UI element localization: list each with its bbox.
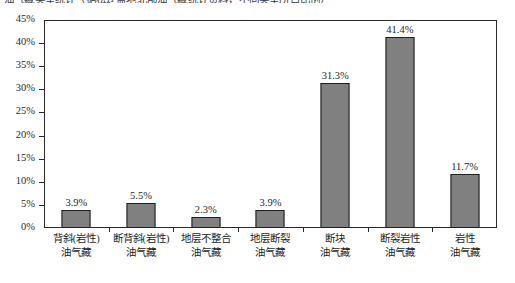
bar-value-label: 11.7% xyxy=(451,161,478,172)
bar-chart: 油气藏类型统计（据松辽盆地北部油气藏统计资料，不同类型所占比例） 45%40%3… xyxy=(0,0,515,283)
y-axis-tick-label: 10% xyxy=(16,175,35,186)
y-axis-tick-label: 25% xyxy=(16,105,35,116)
bar[interactable] xyxy=(256,210,285,228)
bar-slot: 31.3% xyxy=(303,20,368,228)
x-axis-category-label: 地层不整合油气藏 xyxy=(173,232,238,260)
bar[interactable] xyxy=(450,174,479,228)
bar-slot: 41.4% xyxy=(368,20,433,228)
category-label-line2: 油气藏 xyxy=(238,246,303,260)
category-label-line1: 地层断裂 xyxy=(250,233,290,244)
x-axis-category-label: 断块油气藏 xyxy=(303,232,368,260)
bar[interactable] xyxy=(385,37,414,228)
y-axis-tick-label: 35% xyxy=(16,59,35,70)
x-axis-category-label: 断背斜(岩性)油气藏 xyxy=(109,232,174,260)
bar-slot: 2.3% xyxy=(173,20,238,228)
bar-value-label: 2.3% xyxy=(195,204,217,215)
category-label-line1: 背斜(岩性) xyxy=(53,233,100,244)
category-label-line1: 地层不整合 xyxy=(181,233,231,244)
category-label-line2: 油气藏 xyxy=(109,246,174,260)
bars-layer: 3.9%5.5%2.3%3.9%31.3%41.4%11.7% xyxy=(44,20,497,228)
x-axis-category-label: 背斜(岩性)油气藏 xyxy=(44,232,109,260)
bar-value-label: 41.4% xyxy=(386,24,413,35)
category-label-line2: 油气藏 xyxy=(303,246,368,260)
bar[interactable] xyxy=(191,217,220,228)
y-axis-tick-label: 20% xyxy=(16,129,35,140)
y-axis: 45%40%35%30%25%20%15%10%5%0% xyxy=(0,20,44,228)
y-axis-tick-label: 15% xyxy=(16,152,35,163)
x-axis-category-labels: 背斜(岩性)油气藏断背斜(岩性)油气藏地层不整合油气藏地层断裂油气藏断块油气藏断… xyxy=(44,232,497,278)
y-axis-tick-label: 30% xyxy=(16,82,35,93)
bar-slot: 3.9% xyxy=(238,20,303,228)
category-label-line1: 断块 xyxy=(325,233,345,244)
x-axis-category-label: 断裂岩性油气藏 xyxy=(368,232,433,260)
y-axis-tick-label: 40% xyxy=(16,36,35,47)
bar[interactable] xyxy=(127,203,156,228)
category-label-line1: 断裂岩性 xyxy=(380,233,420,244)
y-axis-tick-label: 0% xyxy=(21,221,35,232)
category-label-line2: 油气藏 xyxy=(368,246,433,260)
bar[interactable] xyxy=(62,210,91,228)
category-label-line2: 油气藏 xyxy=(432,246,497,260)
bar-slot: 5.5% xyxy=(109,20,174,228)
bar-value-label: 3.9% xyxy=(260,197,282,208)
x-axis-category-label: 岩性油气藏 xyxy=(432,232,497,260)
x-axis-category-label: 地层断裂油气藏 xyxy=(238,232,303,260)
clipped-caption-text: 油气藏类型统计（据松辽盆地北部油气藏统计资料，不同类型所占比例） xyxy=(4,0,509,3)
bar-value-label: 31.3% xyxy=(322,70,349,81)
category-label-line1: 断背斜(岩性) xyxy=(113,233,170,244)
y-axis-tick-label: 45% xyxy=(16,13,35,24)
bar-value-label: 5.5% xyxy=(130,190,152,201)
bar-slot: 11.7% xyxy=(432,20,497,228)
bar-value-label: 3.9% xyxy=(65,197,87,208)
category-label-line2: 油气藏 xyxy=(44,246,109,260)
bar-slot: 3.9% xyxy=(44,20,109,228)
bar[interactable] xyxy=(321,83,350,228)
category-label-line2: 油气藏 xyxy=(173,246,238,260)
y-axis-tick-label: 5% xyxy=(21,198,35,209)
category-label-line1: 岩性 xyxy=(455,233,475,244)
